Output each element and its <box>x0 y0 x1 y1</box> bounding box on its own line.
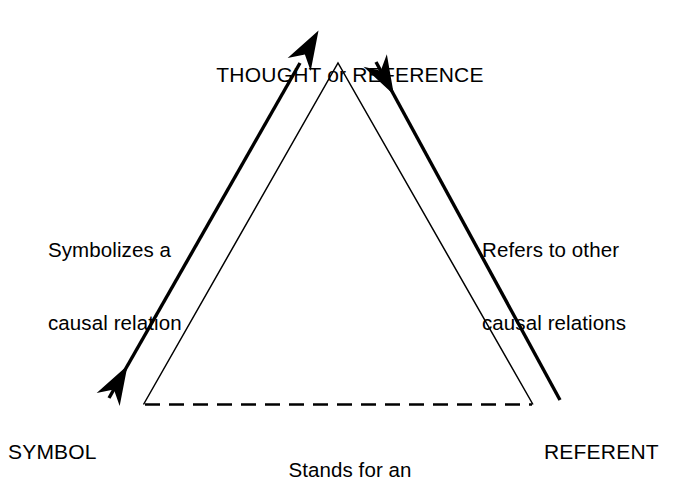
edge-label-stands-for-an-imputed-relation: Stands for an imputed relation <box>0 410 700 496</box>
edge-label-right-line2: causal relations <box>482 311 626 335</box>
edge-label-refers-to-other-causal-relations: Refers to other causal relations <box>482 190 626 384</box>
edge-label-bottom-line1: Stands for an <box>0 458 700 482</box>
semiotic-triangle-diagram: THOUGHT or REFERENCE SYMBOL REFERENT Sym… <box>0 0 700 496</box>
edge-label-left-line2: causal relation <box>48 311 182 335</box>
edge-label-symbolizes-a-causal-relation: Symbolizes a causal relation <box>48 190 182 384</box>
edge-label-right-line1: Refers to other <box>482 238 626 262</box>
vertex-label-thought-text: THOUGHT or REFERENCE <box>0 63 700 88</box>
vertex-label-thought-or-reference: THOUGHT or REFERENCE <box>0 13 700 137</box>
edge-label-left-line1: Symbolizes a <box>48 238 182 262</box>
